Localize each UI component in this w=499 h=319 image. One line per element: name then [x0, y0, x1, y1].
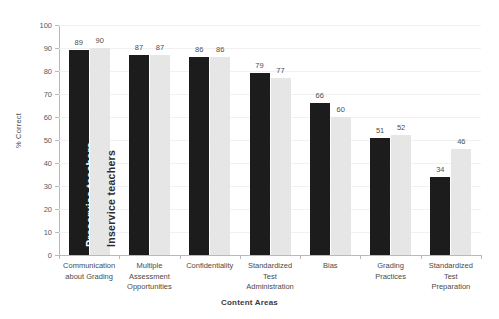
x-category-label-line: Preparation	[415, 282, 487, 293]
y-tick-mark	[55, 209, 59, 210]
y-tick-mark	[55, 140, 59, 141]
y-tick-mark	[55, 25, 59, 26]
bar-value-label: 46	[446, 137, 476, 146]
y-tick-label: 90	[44, 44, 52, 53]
bar-value-label: 60	[326, 105, 356, 114]
bar-inservice[interactable]	[391, 135, 411, 255]
x-tick-mark	[180, 255, 181, 259]
bar-value-label: 87	[145, 43, 175, 52]
y-tick-mark	[55, 163, 59, 164]
bar-inservice[interactable]	[210, 57, 230, 255]
y-tick-label: 20	[44, 205, 52, 214]
legend-inservice: Inservice teachers	[105, 150, 117, 247]
y-axis-title: % Correct	[14, 91, 23, 171]
bar-preservice[interactable]	[189, 57, 209, 255]
x-tick-mark	[59, 255, 60, 259]
bar-preservice[interactable]	[250, 73, 270, 255]
bar-preservice[interactable]	[129, 55, 149, 255]
x-tick-mark	[300, 255, 301, 259]
x-tick-mark	[240, 255, 241, 259]
y-tick-mark	[55, 186, 59, 187]
x-axis-title: Content Areas	[0, 298, 499, 307]
y-tick-mark	[55, 48, 59, 49]
y-tick-label: 100	[39, 21, 52, 30]
y-tick-label: 0	[48, 251, 52, 260]
y-tick-mark	[55, 71, 59, 72]
y-tick-label: 70	[44, 90, 52, 99]
gridline	[59, 255, 481, 256]
x-category-label-line: Opportunities	[113, 282, 185, 293]
y-tick-label: 40	[44, 159, 52, 168]
bar-value-label: 90	[85, 36, 115, 45]
y-tick-label: 10	[44, 228, 52, 237]
x-category-label: StandardizedTestPreparation	[415, 261, 487, 293]
gridline	[59, 48, 481, 49]
bar-value-label: 66	[305, 91, 335, 100]
y-tick-mark	[55, 94, 59, 95]
x-category-label-line: Administration	[234, 282, 306, 293]
bar-inservice[interactable]	[150, 55, 170, 255]
bar-inservice[interactable]	[271, 78, 291, 255]
plot-area: 010203040506070809010089Preservice teach…	[59, 25, 481, 255]
x-tick-mark	[360, 255, 361, 259]
y-tick-mark	[55, 117, 59, 118]
bar-chart: % Correct 010203040506070809010089Preser…	[0, 0, 499, 319]
bar-inservice[interactable]	[331, 117, 351, 255]
x-tick-mark	[481, 255, 482, 259]
y-tick-label: 80	[44, 67, 52, 76]
bar-value-label: 77	[266, 66, 296, 75]
y-tick-label: 50	[44, 136, 52, 145]
x-category-label-line: Test	[415, 272, 487, 283]
x-tick-mark	[119, 255, 120, 259]
x-category-label-line: Standardized	[415, 261, 487, 272]
bar-value-label: 86	[205, 45, 235, 54]
y-tick-label: 60	[44, 113, 52, 122]
bar-preservice[interactable]	[370, 138, 390, 255]
y-tick-label: 30	[44, 182, 52, 191]
x-tick-mark	[421, 255, 422, 259]
x-category-label-line: Test	[234, 272, 306, 283]
bar-inservice[interactable]	[451, 149, 471, 255]
bar-value-label: 52	[386, 123, 416, 132]
y-tick-mark	[55, 232, 59, 233]
gridline	[59, 25, 481, 26]
x-category-label-line: Assessment	[113, 272, 185, 283]
bar-preservice[interactable]	[310, 103, 330, 255]
bar-preservice[interactable]	[430, 177, 450, 255]
